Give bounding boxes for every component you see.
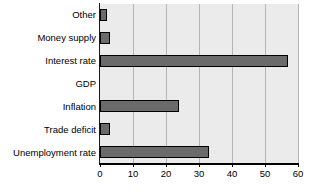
- value-tick-mark: [100, 164, 101, 167]
- bar-chart: OtherMoney supplyInterest rateGDPInflati…: [0, 0, 310, 192]
- bar[interactable]: [100, 55, 288, 67]
- bar-row: [100, 118, 298, 141]
- category-label: Trade deficit: [0, 124, 96, 135]
- bar-row: [100, 141, 298, 164]
- y-axis-line: [99, 3, 100, 165]
- value-tick-mark: [232, 164, 233, 167]
- category-label: Unemployment rate: [0, 147, 96, 158]
- value-tick-label: 20: [151, 168, 181, 180]
- bar-row: [100, 4, 298, 27]
- bar[interactable]: [100, 146, 209, 158]
- bar[interactable]: [100, 100, 179, 112]
- value-tick-mark: [166, 164, 167, 167]
- value-tick-mark: [133, 164, 134, 167]
- bar-row: [100, 95, 298, 118]
- value-tick-mark: [298, 164, 299, 167]
- value-axis-labels: 0102030405060: [0, 168, 310, 184]
- category-label: GDP: [0, 78, 96, 89]
- value-tick-label: 60: [283, 168, 310, 180]
- bar[interactable]: [100, 123, 110, 135]
- plot-area: [100, 4, 298, 164]
- category-label: Other: [0, 9, 96, 20]
- value-tick-label: 40: [217, 168, 247, 180]
- bar[interactable]: [100, 9, 107, 21]
- gridline: [298, 4, 299, 164]
- bar[interactable]: [100, 32, 110, 44]
- category-axis-labels: OtherMoney supplyInterest rateGDPInflati…: [0, 4, 96, 164]
- value-tick-label: 10: [118, 168, 148, 180]
- value-tick-mark: [199, 164, 200, 167]
- value-tick-label: 30: [184, 168, 214, 180]
- value-tick-label: 50: [250, 168, 280, 180]
- category-label: Money supply: [0, 32, 96, 43]
- bar-row: [100, 50, 298, 73]
- category-label: Inflation: [0, 101, 96, 112]
- value-tick-label: 0: [85, 168, 115, 180]
- value-tick-mark: [265, 164, 266, 167]
- category-label: Interest rate: [0, 55, 96, 66]
- bar-row: [100, 27, 298, 50]
- bar-row: [100, 73, 298, 96]
